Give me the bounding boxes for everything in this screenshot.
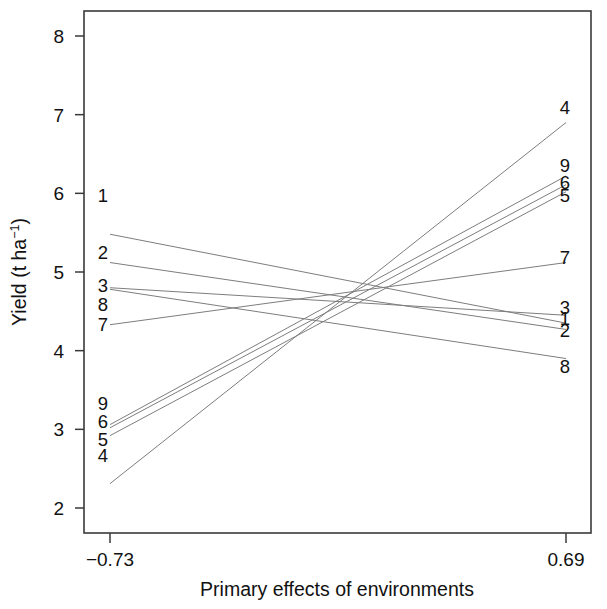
y-tick-label: 6	[53, 183, 64, 204]
x-tick-label: 0.69	[548, 549, 585, 570]
series-label-left-6: 6	[98, 411, 108, 432]
data-series-group	[110, 123, 566, 484]
y-axis-title: Yield (t ha−1)	[8, 218, 30, 326]
series-label-right-8: 8	[560, 356, 570, 377]
y-axis-title-superscript: −1	[8, 225, 22, 239]
y-tick-label: 8	[53, 26, 64, 47]
x-axis-ticks: −0.730.69	[86, 533, 585, 570]
y-tick-label: 5	[53, 262, 64, 283]
genotype-line-3	[110, 288, 566, 316]
y-axis-title-tail: )	[8, 218, 30, 225]
genotype-line-8	[110, 289, 566, 358]
series-label-left-9: 9	[98, 393, 108, 414]
series-label-left-3: 3	[98, 275, 108, 296]
genotype-line-1	[110, 234, 566, 323]
series-label-left-7: 7	[98, 314, 108, 335]
y-axis-ticks: 2345678	[53, 26, 84, 519]
series-label-right-9: 9	[560, 155, 570, 176]
y-tick-label: 4	[53, 341, 64, 362]
right-endpoint-labels: 123456789	[560, 97, 570, 378]
series-label-left-2: 2	[98, 242, 108, 263]
y-tick-label: 2	[53, 498, 64, 519]
x-tick-label: −0.73	[86, 549, 134, 570]
genotype-line-2	[110, 263, 566, 330]
series-label-left-8: 8	[98, 294, 108, 315]
genotype-line-7	[110, 263, 566, 325]
series-label-left-1: 1	[98, 185, 108, 206]
series-label-right-7: 7	[560, 247, 570, 268]
line-chart-svg: 2345678 −0.730.69 123456789 123456789 Pr…	[0, 0, 607, 609]
x-axis-title: Primary effects of environments	[200, 578, 474, 600]
series-label-right-3: 3	[560, 297, 570, 318]
genotype-line-4	[110, 123, 566, 484]
left-endpoint-labels: 123456789	[98, 185, 108, 466]
plot-frame	[84, 11, 591, 533]
series-label-right-2: 2	[560, 320, 570, 341]
svg-text:Yield (t ha−1): Yield (t ha−1)	[8, 218, 30, 326]
y-tick-label: 3	[53, 419, 64, 440]
y-tick-label: 7	[53, 105, 64, 126]
series-label-right-4: 4	[560, 97, 570, 118]
chart-container: 2345678 −0.730.69 123456789 123456789 Pr…	[0, 0, 607, 609]
y-axis-title-main: Yield (t ha	[8, 239, 30, 326]
genotype-line-9	[110, 176, 566, 425]
genotype-line-6	[110, 185, 566, 428]
genotype-line-5	[110, 192, 566, 436]
